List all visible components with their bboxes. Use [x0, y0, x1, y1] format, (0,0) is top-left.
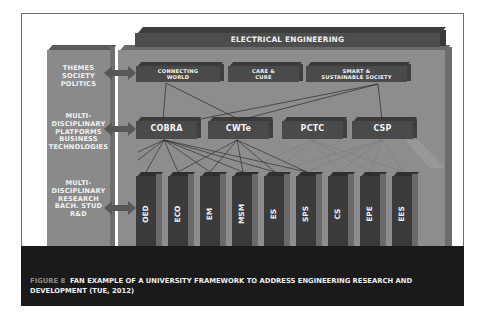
platform-pctc: PCTC — [282, 121, 343, 139]
research-group-ees: EES — [392, 176, 412, 253]
research-group-eco: ECO — [168, 176, 188, 253]
research-group-sps: SPS — [296, 176, 316, 253]
caption-text: FAN EXAMPLE OF A UNIVERSITY FRAMEWORK TO… — [30, 277, 412, 295]
left-panel-side — [110, 47, 115, 259]
figure-number: FIGURE 8 — [30, 277, 65, 285]
research-group-es: ES — [264, 176, 284, 253]
theme-care-cure: CARE & CURE — [228, 66, 299, 82]
research-group-label: ES — [269, 194, 279, 234]
platform-box-side — [197, 119, 201, 138]
research-group-label: EPE — [365, 194, 375, 234]
research-group-label: MSM — [237, 194, 247, 234]
pillar-side — [188, 174, 194, 252]
theme-line: CURE — [228, 74, 299, 80]
left-label-platforms: MULTI- DISCIPLINARY PLATFORMS BUSINESS T… — [47, 113, 110, 152]
figure-caption: FIGURE 8 FAN EXAMPLE OF A UNIVERSITY FRA… — [30, 276, 455, 296]
platform-box-side — [269, 119, 273, 138]
theme-box-side — [299, 64, 303, 81]
platform-csp: CSP — [352, 121, 413, 139]
platform-cobra: COBRA — [136, 121, 197, 139]
research-group-epe: EPE — [360, 176, 380, 253]
main-panel-side — [445, 47, 452, 257]
pillar-side — [284, 174, 290, 252]
research-group-label: SPS — [301, 194, 311, 234]
theme-line: WORLD — [136, 74, 220, 80]
theme-box-side — [407, 64, 411, 81]
research-group-label: ECO — [173, 194, 183, 234]
pillar-side — [412, 174, 418, 252]
research-group-label: EES — [397, 194, 407, 234]
research-group-oed: OED — [136, 176, 156, 253]
ee-bar-side — [440, 30, 446, 46]
platform-box-side — [413, 119, 417, 138]
label-line: POLITICS — [47, 81, 110, 89]
theme-line: SUSTAINABLE SOCIETY — [306, 74, 407, 80]
theme-connecting-world: CONNECTING WORLD — [136, 66, 220, 82]
research-group-label: EM — [205, 194, 215, 234]
research-group-msm: MSM — [232, 176, 252, 253]
platform-cwte: CWTe — [208, 121, 269, 139]
research-group-label: CS — [333, 194, 343, 234]
electrical-engineering-bar: ELECTRICAL ENGINEERING — [135, 33, 440, 47]
left-label-themes: THEMES SOCIETY POLITICS — [47, 65, 110, 88]
label-line: R&D — [47, 211, 110, 219]
pillar-side — [252, 174, 258, 252]
pillar-side — [156, 174, 162, 252]
left-label-research: MULTI- DISCIPLINARY RESEARCH BACH. STUD … — [47, 180, 110, 219]
pillar-side — [348, 174, 354, 252]
theme-box-side — [220, 64, 224, 81]
research-group-label: OED — [141, 194, 151, 234]
pillar-side — [220, 174, 226, 252]
research-group-cs: CS — [328, 176, 348, 253]
research-group-em: EM — [200, 176, 220, 253]
platform-box-side — [343, 119, 347, 138]
pillar-side — [316, 174, 322, 252]
pillar-side — [380, 174, 386, 252]
label-line: TECHNOLOGIES — [47, 144, 110, 152]
theme-smart-sustainable-society: SMART & SUSTAINABLE SOCIETY — [306, 66, 407, 82]
